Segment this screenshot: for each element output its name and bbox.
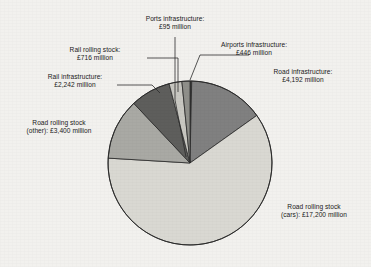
pie-chart-figure: Ports infrastructure: £95 million Airpor…	[0, 0, 371, 267]
label-road-rolling-stock-other: Road rolling stock (other): £3,400 milli…	[11, 119, 107, 135]
label-airports-infrastructure: Airports infrastructure: £446 million	[202, 41, 306, 57]
label-road-rolling-stock-cars: Road rolling stock (cars): £17,200 milli…	[262, 203, 366, 219]
label-ports-infrastructure: Ports infrastructure: £95 million	[117, 15, 233, 31]
label-rail-infrastructure: Rail infrastructure: £2,242 million	[33, 73, 117, 89]
pie-slice-group	[108, 81, 272, 245]
label-rail-rolling-stock: Rail rolling stock: £716 million	[49, 46, 141, 62]
label-road-infrastructure: Road infrastructure: £4,192 million	[255, 68, 351, 84]
leader-line-airports	[190, 55, 249, 80]
